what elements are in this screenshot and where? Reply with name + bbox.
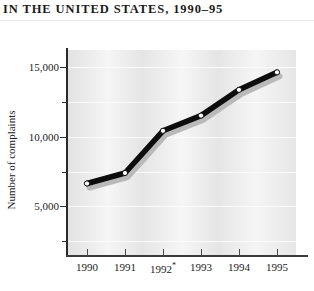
- x-tick: [277, 249, 278, 256]
- gridline: [68, 172, 296, 173]
- plot-band: [258, 50, 296, 255]
- gridline: [68, 67, 296, 68]
- x-tick-label-text: 1993: [190, 261, 212, 273]
- y-tick-major: [60, 137, 67, 138]
- y-axis-line: [66, 48, 68, 257]
- y-axis-title: Number of complaints: [5, 85, 21, 235]
- x-tick: [125, 249, 126, 256]
- y-tick-major: [60, 206, 67, 207]
- x-tick-label-text: 1994: [228, 261, 250, 273]
- x-tick-label-text: 1995: [266, 261, 288, 273]
- y-tick-major: [60, 67, 67, 68]
- plot-band: [68, 50, 106, 255]
- x-tick-label: 1995: [254, 261, 300, 273]
- y-tick-label: 15,000: [7, 61, 59, 73]
- gridline: [68, 206, 296, 207]
- chart-figure: IN THE UNITED STATES, 1990–95 Number of …: [0, 0, 314, 291]
- x-tick: [239, 249, 240, 256]
- x-tick: [163, 249, 164, 256]
- gridline: [68, 137, 296, 138]
- x-tick-label-text: 1992: [150, 263, 172, 275]
- plot-band: [144, 50, 182, 255]
- plot-band: [220, 50, 258, 255]
- x-tick-label-text: 1990: [76, 261, 98, 273]
- y-tick-label: 10,000: [7, 131, 59, 143]
- gridline: [68, 102, 296, 103]
- chart-title: IN THE UNITED STATES, 1990–95: [3, 1, 303, 17]
- x-axis-line: [66, 255, 308, 257]
- y-tick-minor: [62, 102, 67, 103]
- x-tick: [87, 249, 88, 256]
- title-divider: [0, 20, 314, 21]
- y-tick-minor: [62, 172, 67, 173]
- footnote-marker: *: [172, 261, 176, 270]
- x-tick-label-text: 1991: [114, 261, 136, 273]
- gridline: [68, 241, 296, 242]
- y-tick-minor: [62, 241, 67, 242]
- plot-band: [106, 50, 144, 255]
- x-tick: [201, 249, 202, 256]
- plot-area: [68, 50, 296, 255]
- plot-band: [182, 50, 220, 255]
- y-tick-label: 5,000: [7, 200, 59, 212]
